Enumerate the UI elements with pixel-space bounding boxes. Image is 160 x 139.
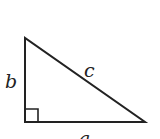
label-a: a (79, 127, 90, 139)
label-b: b (5, 70, 17, 92)
right-angle-marker (25, 109, 38, 122)
right-triangle-diagram: b c a (0, 0, 160, 139)
label-c: c (84, 59, 95, 81)
